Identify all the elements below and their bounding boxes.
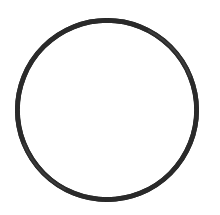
o-ring-illustration — [0, 0, 220, 215]
product-photo-canvas — [0, 0, 220, 215]
